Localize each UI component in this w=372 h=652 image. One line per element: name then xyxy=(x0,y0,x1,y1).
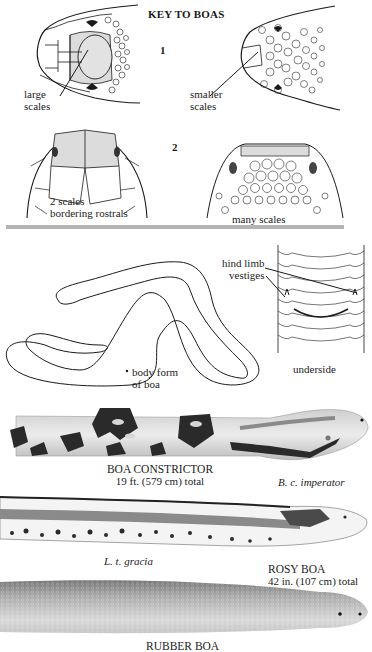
species-size: 19 ft. (579 cm) total xyxy=(105,475,215,487)
boa-constrictor-subspecies: B. c. imperator xyxy=(278,476,345,488)
species-name: BOA CONSTRICTOR xyxy=(105,463,215,475)
species-name: ROSY BOA xyxy=(268,563,358,575)
boa-constrictor-photo xyxy=(10,408,370,464)
rosy-boa-photo xyxy=(0,495,372,555)
boa-constrictor-caption: BOA CONSTRICTOR 19 ft. (579 cm) total xyxy=(105,463,215,487)
rubber-boa-caption: RUBBER BOA xyxy=(146,640,219,652)
species-name: RUBBER BOA xyxy=(146,640,219,652)
label-underside: underside xyxy=(293,363,336,375)
rosy-boa-subspecies: L. t. gracia xyxy=(104,555,153,567)
rubber-boa-photo xyxy=(0,578,372,638)
